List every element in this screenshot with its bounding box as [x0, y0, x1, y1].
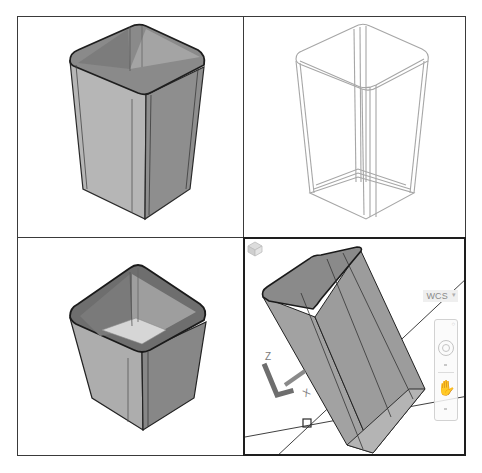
viewport-top-left[interactable]	[17, 16, 244, 238]
bin-realistic-model	[18, 17, 244, 238]
hand-pan-icon[interactable]: ✋	[437, 380, 456, 395]
viewport-bottom-left[interactable]	[17, 237, 244, 456]
navbar-separator	[438, 372, 454, 373]
ucs-icon	[265, 366, 305, 395]
navigation-bar: ○ ✋	[434, 319, 458, 421]
navbar-close-icon[interactable]: ○	[451, 321, 455, 327]
wcs-label: WCS	[426, 291, 448, 301]
navbar-more-icon[interactable]	[444, 408, 447, 410]
steering-wheel-dropdown-icon[interactable]	[444, 364, 447, 366]
viewport-grid: Z X WCS ○ ✋	[17, 16, 466, 456]
bin-shaded-tilted-model	[245, 239, 466, 456]
bin-realistic-top-model	[18, 238, 244, 456]
viewport-top-right[interactable]	[243, 16, 466, 238]
wcs-dropdown[interactable]: WCS	[423, 290, 458, 302]
bin-wireframe-model	[244, 17, 466, 238]
ucs-z-label: Z	[265, 351, 271, 362]
viewcube-icon[interactable]	[245, 239, 265, 257]
viewport-bottom-right-active[interactable]: Z X WCS ○ ✋	[243, 237, 466, 456]
steering-wheel-icon[interactable]	[438, 340, 454, 356]
